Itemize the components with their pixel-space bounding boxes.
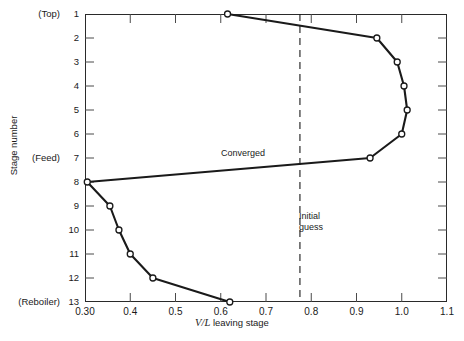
y-axis-tick-5: 5 [63, 105, 79, 115]
y-axis-annotation-13: (Reboiler) [0, 297, 60, 307]
converged-series-line [87, 14, 407, 302]
initial-guess-annotation-label: Initial guess [299, 211, 323, 233]
y-axis-tick-11: 11 [63, 249, 79, 259]
y-axis-tick-7: 7 [63, 153, 79, 163]
y-axis-tick-1: 1 [63, 9, 79, 19]
y-axis-title: Stage number [8, 101, 19, 191]
y-axis-tick-12: 12 [63, 273, 79, 283]
y-axis-tick-4: 4 [63, 81, 79, 91]
x-axis-title-text: leaving stage [210, 317, 269, 328]
y-axis-tick-3: 3 [63, 57, 79, 67]
x-axis-tick-0.4: 0.4 [110, 306, 150, 317]
y-axis-annotation-1: (Top) [0, 9, 60, 19]
x-axis-tick-1.1: 1.1 [427, 306, 464, 317]
x-axis-title: V/L leaving stage [0, 317, 464, 328]
y-axis-tick-10: 10 [63, 225, 79, 235]
x-axis-tick-0.8: 0.8 [291, 306, 331, 317]
x-axis-tick-0.7: 0.7 [246, 306, 286, 317]
figure-container: 1(Top)234567(Feed)8910111213(Reboiler) 0… [0, 0, 464, 341]
initial-guess-line-2: guess [299, 222, 323, 233]
initial-guess-line-1: Initial [299, 211, 323, 222]
x-axis-tick-0.30: 0.30 [65, 306, 105, 317]
x-axis-tick-0.9: 0.9 [337, 306, 377, 317]
x-axis-tick-1.0: 1.0 [382, 306, 422, 317]
y-axis-tick-8: 8 [63, 177, 79, 187]
x-axis-tick-0.6: 0.6 [201, 306, 241, 317]
chart-canvas [0, 0, 464, 341]
y-axis-tick-2: 2 [63, 33, 79, 43]
y-axis-ticks [85, 38, 447, 278]
y-axis-tick-6: 6 [63, 129, 79, 139]
converged-annotation-label: Converged [221, 148, 265, 158]
y-axis-tick-9: 9 [63, 201, 79, 211]
x-axis-tick-0.5: 0.5 [156, 306, 196, 317]
x-axis-title-symbol: V/L [195, 317, 210, 328]
